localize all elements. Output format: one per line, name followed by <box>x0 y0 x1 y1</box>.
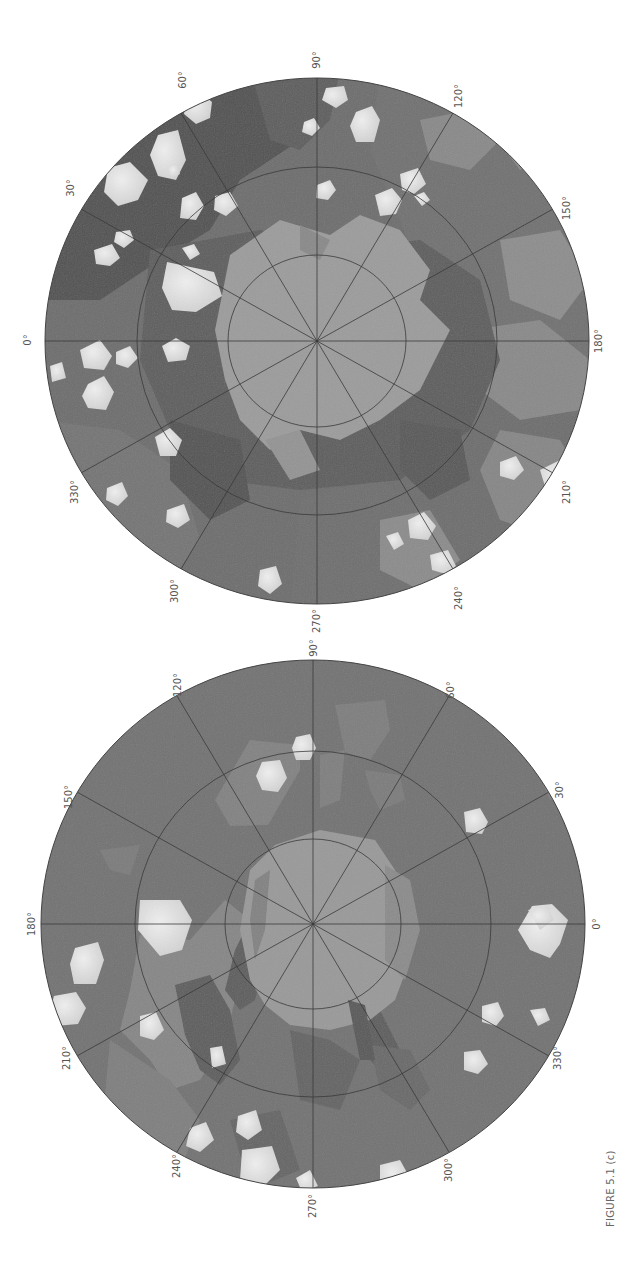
longitude-label: 60° <box>445 681 456 699</box>
longitude-label: 180° <box>26 912 37 936</box>
longitude-label: 90° <box>311 51 322 69</box>
lower-hemisphere-map: 90° 120° 150° 180° 210° 240° 270° 300° 3… <box>26 639 602 1218</box>
figure-caption: FIGURE 5.1 (c) <box>605 1150 616 1227</box>
upper-hemisphere-map: 0° 30° 60° 90° 120° 150° 180° 210° 240° … <box>22 51 604 633</box>
longitude-label: 30° <box>554 781 565 799</box>
longitude-label: 300° <box>443 1158 454 1182</box>
longitude-label: 330° <box>552 1046 563 1070</box>
longitude-label: 30° <box>65 179 76 197</box>
longitude-label: 0° <box>22 334 33 345</box>
longitude-label: 120° <box>172 673 183 697</box>
longitude-label: 240° <box>453 586 464 610</box>
longitude-label: 270° <box>311 609 322 633</box>
longitude-label: 90° <box>308 639 319 657</box>
longitude-label: 0° <box>591 918 602 929</box>
longitude-label: 150° <box>63 785 74 809</box>
figure-canvas: 0° 30° 60° 90° 120° 150° 180° 210° 240° … <box>0 0 630 1273</box>
longitude-label: 60° <box>177 71 188 89</box>
longitude-label: 330° <box>69 480 80 504</box>
longitude-label: 120° <box>453 84 464 108</box>
longitude-label: 300° <box>169 579 180 603</box>
longitude-label: 210° <box>61 1046 72 1070</box>
longitude-label: 210° <box>561 480 572 504</box>
upper-map-terrain <box>40 70 600 610</box>
longitude-label: 270° <box>307 1194 318 1218</box>
longitude-label: 240° <box>171 1154 182 1178</box>
longitude-label: 150° <box>561 196 572 220</box>
longitude-label: 180° <box>593 329 604 353</box>
